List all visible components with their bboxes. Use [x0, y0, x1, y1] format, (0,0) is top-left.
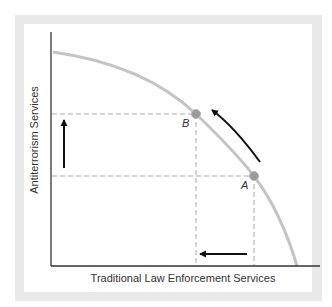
ppf-chart [0, 0, 332, 307]
ppf-curve [53, 52, 297, 266]
point-a-label: A [241, 179, 248, 191]
guide-lines [52, 114, 254, 265]
point-a [250, 172, 259, 181]
y-axis-label: Antiterrorism Services [28, 86, 40, 194]
point-b [192, 110, 201, 119]
x-axis-label: Traditional Law Enforcement Services [91, 272, 276, 284]
point-b-label: B [182, 117, 189, 129]
